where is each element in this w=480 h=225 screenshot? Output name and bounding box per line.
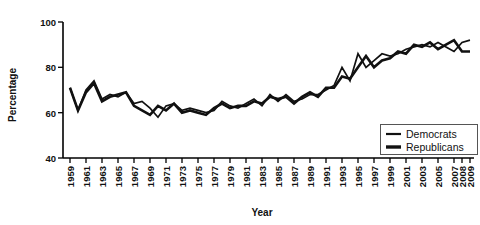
x-tick-label-1987: 1987 — [289, 166, 300, 187]
y-axis-title: Percentage — [7, 68, 18, 122]
x-tick-label-1989: 1989 — [305, 166, 316, 187]
x-tick-label-2003: 2003 — [417, 166, 428, 187]
x-tick-label-1971: 1971 — [161, 165, 172, 187]
x-tick-label-1959: 1959 — [65, 166, 76, 187]
x-tick-label-1981: 1981 — [241, 165, 252, 187]
x-tick-label-1979: 1979 — [225, 166, 236, 187]
x-tick-label-1991: 1991 — [321, 165, 332, 187]
x-tick-label-1967: 1967 — [129, 166, 140, 187]
y-tick-label-60: 60 — [45, 108, 56, 119]
x-tick-label-1999: 1999 — [385, 166, 396, 187]
x-tick-label-1965: 1965 — [113, 165, 124, 187]
x-tick-label-1963: 1963 — [97, 166, 108, 187]
x-tick-label-2005: 2005 — [433, 165, 444, 187]
x-tick-labels: 1959196119631965196719691971197319751977… — [65, 165, 476, 187]
x-tick-label-1975: 1975 — [193, 165, 204, 187]
x-tick-label-1973: 1973 — [177, 166, 188, 187]
x-tick-label-1969: 1969 — [145, 166, 156, 187]
series-paths — [70, 40, 470, 117]
x-tick-label-1983: 1983 — [257, 166, 268, 187]
x-tick-label-2009: 2009 — [465, 166, 476, 187]
chart-container: Percentage 100 80 60 40 1959196119631965… — [0, 0, 480, 225]
x-tick-label-2001: 2001 — [401, 165, 412, 187]
x-tick-label-1993: 1993 — [337, 166, 348, 187]
series-line-democrats — [70, 40, 470, 117]
legend-label-democrats: Democrats — [406, 128, 457, 140]
x-tick-label-1985: 1985 — [273, 165, 284, 187]
line-chart-svg: Percentage 100 80 60 40 1959196119631965… — [0, 0, 480, 225]
chart-legend: Democrats Republicans — [381, 125, 478, 155]
x-tick-label-1997: 1997 — [369, 166, 380, 187]
x-tick-label-1961: 1961 — [81, 165, 92, 187]
y-tick-label-100: 100 — [40, 17, 56, 28]
x-tick-label-1977: 1977 — [209, 166, 220, 187]
series-line-republicans — [70, 40, 470, 115]
y-tick-labels: 100 80 60 40 — [40, 17, 56, 164]
legend-label-republicans: Republicans — [406, 141, 464, 153]
x-tick-label-1995: 1995 — [353, 165, 364, 187]
x-axis-title: Year — [251, 207, 272, 218]
y-tick-label-80: 80 — [45, 62, 56, 73]
y-tick-label-40: 40 — [45, 153, 56, 164]
